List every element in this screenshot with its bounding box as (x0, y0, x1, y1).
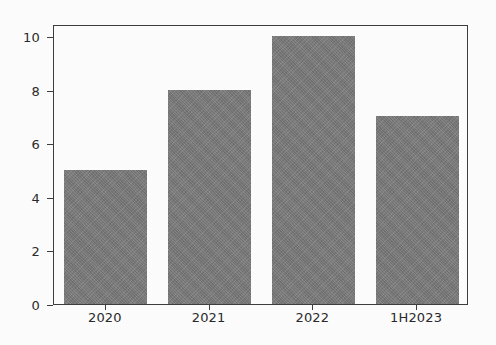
bar-1H2023 (376, 116, 459, 304)
plot-area (53, 25, 468, 305)
y-tick-label: 4 (0, 191, 40, 204)
x-tick-label: 2021 (149, 311, 269, 324)
x-tick-label: 2020 (45, 311, 165, 324)
bar-2022 (272, 36, 355, 304)
bar-2021 (168, 90, 251, 304)
y-tick-mark (47, 305, 53, 306)
x-tick-label: 2022 (252, 311, 372, 324)
x-tick-label: 1H2023 (356, 311, 476, 324)
y-tick-label: 6 (0, 138, 40, 151)
y-tick-label: 10 (0, 31, 40, 44)
bar-2020 (64, 170, 147, 304)
bar-chart-figure: 0246810 2020202120221H2023 (0, 0, 496, 345)
y-tick-label: 2 (0, 245, 40, 258)
y-tick-label: 8 (0, 84, 40, 97)
y-tick-label: 0 (0, 299, 40, 312)
